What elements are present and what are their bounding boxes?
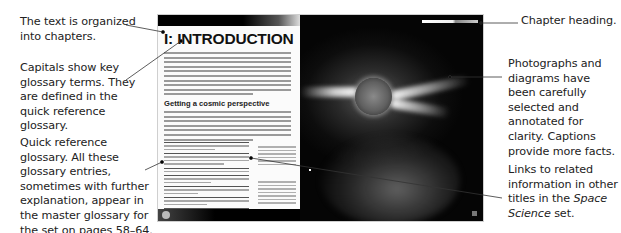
- annotation-chapters: The text is organized into chapters.: [20, 15, 150, 44]
- links-text-suffix: set.: [551, 207, 575, 220]
- annotation-glossary: Quick reference glossary. All these glos…: [20, 136, 155, 233]
- body-text-section: [164, 111, 291, 143]
- glossary-entry: [164, 197, 249, 205]
- glossary-entry: [164, 168, 249, 173]
- book-spread: I: INTRODUCTION Getting a cosmic perspec…: [158, 15, 483, 221]
- bottom-band: [158, 209, 300, 221]
- sun-disc: [355, 78, 392, 115]
- glossary-entry: [164, 175, 249, 183]
- top-band: [158, 15, 300, 26]
- annotation-links: Links to related information in other ti…: [508, 163, 621, 221]
- glossary-entry: [164, 186, 249, 194]
- quick-reference-glossary: [164, 142, 249, 219]
- annotation-chapter-heading: Chapter heading.: [521, 14, 621, 29]
- nebula-glow: [320, 135, 460, 221]
- annotation-photographs: Photographs and diagrams have been caref…: [508, 57, 621, 159]
- chapter-title: I: INTRODUCTION: [164, 30, 294, 48]
- glossary-entry: [164, 142, 249, 150]
- side-note-link: [258, 181, 296, 206]
- side-note-link: [258, 146, 296, 167]
- page-number-icon: [162, 211, 170, 219]
- left-page: I: INTRODUCTION Getting a cosmic perspec…: [158, 15, 300, 221]
- right-page-photograph: [300, 15, 483, 221]
- chapter-heading-bar: [422, 20, 478, 23]
- annotation-capitals: Capitals show key glossary terms. They a…: [20, 61, 150, 134]
- corona-streamer: [300, 87, 358, 97]
- page-corner-icon: [472, 211, 477, 216]
- section-subheading: Getting a cosmic perspective: [164, 99, 270, 108]
- glossary-entry: [164, 153, 249, 165]
- body-text-intro: [164, 52, 291, 98]
